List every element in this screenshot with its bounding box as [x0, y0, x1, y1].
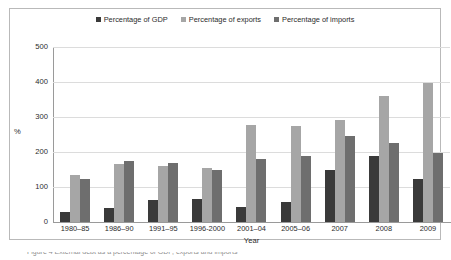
bar-exports	[335, 120, 345, 222]
y-tick-label: 400	[14, 78, 48, 86]
y-tick-label: 500	[14, 43, 48, 51]
bar-exports	[70, 175, 80, 222]
y-tick-label: 200	[14, 148, 48, 156]
bar-gdp	[192, 199, 202, 222]
bar-exports	[423, 83, 433, 222]
x-axis-title: Year	[53, 237, 450, 245]
legend-item-exports: Percentage of exports	[181, 16, 261, 23]
legend-label-gdp: Percentage of GDP	[104, 16, 168, 23]
bar-gdp	[104, 208, 114, 222]
bar-group	[406, 47, 450, 222]
bar-group	[97, 47, 141, 222]
y-tick-label: 300	[14, 113, 48, 121]
caption-sliver: Figure 4 External debt as a percentage o…	[27, 252, 427, 260]
bar-exports	[202, 168, 212, 222]
bar-imports	[124, 161, 134, 222]
legend-swatch-gdp	[96, 17, 101, 22]
bar-group	[185, 47, 229, 222]
bar-imports	[433, 153, 443, 222]
legend-swatch-exports	[181, 17, 186, 22]
bar-group	[318, 47, 362, 222]
legend-label-imports: Percentage of imports	[282, 16, 354, 23]
bar-exports	[291, 126, 301, 222]
bar-gdp	[236, 207, 246, 222]
caption-sliver-text: Figure 4 External debt as a percentage o…	[27, 252, 427, 256]
bar-imports	[389, 143, 399, 222]
x-tick-label: 1986–90	[105, 225, 134, 232]
x-tick-label: 2001–04	[237, 225, 266, 232]
bar-group	[362, 47, 406, 222]
x-tick-label: 2005–06	[281, 225, 310, 232]
x-tick-label: 1980–85	[61, 225, 90, 232]
bar-gdp	[281, 202, 291, 222]
bar-gdp	[60, 212, 70, 222]
legend-swatch-imports	[274, 17, 279, 22]
bar-group	[274, 47, 318, 222]
bar-gdp	[325, 170, 335, 223]
x-tick-label: 1996-2000	[190, 225, 225, 232]
bar-group	[53, 47, 97, 222]
bar-imports	[168, 163, 178, 222]
bar-exports	[379, 96, 389, 222]
bar-imports	[301, 156, 311, 222]
x-tick-label: 2009	[420, 225, 436, 232]
bar-imports	[80, 179, 90, 222]
y-axis-tick-labels: 0100200300400500	[10, 47, 48, 223]
legend-item-gdp: Percentage of GDP	[96, 16, 168, 23]
y-tick-label: 0	[14, 218, 48, 226]
legend-label-exports: Percentage of exports	[189, 16, 261, 23]
bar-group	[141, 47, 185, 222]
bar-group	[229, 47, 273, 222]
bar-gdp	[148, 200, 158, 222]
bar-imports	[212, 170, 222, 223]
x-tick-label: 1991–95	[149, 225, 178, 232]
bar-imports	[256, 159, 266, 222]
y-tick-label: 100	[14, 183, 48, 191]
legend-item-imports: Percentage of imports	[274, 16, 354, 23]
bar-imports	[345, 136, 355, 222]
chart-frame: Percentage of GDP Percentage of exports …	[9, 8, 441, 240]
chart-legend: Percentage of GDP Percentage of exports …	[10, 16, 440, 23]
x-tick-label: 2008	[376, 225, 392, 232]
bar-exports	[158, 166, 168, 222]
x-tick-label: 2007	[331, 225, 347, 232]
bar-gdp	[413, 179, 423, 222]
bar-exports	[114, 164, 124, 222]
plot-area	[53, 47, 450, 222]
bar-gdp	[369, 156, 379, 222]
gridline	[53, 222, 450, 223]
bar-exports	[246, 125, 256, 222]
